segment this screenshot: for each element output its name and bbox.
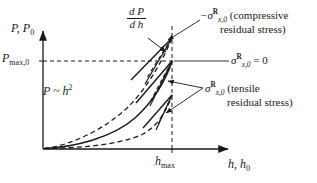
slope-numerator: d P [127,6,146,19]
x-tick-label-hmax: hmax [155,155,175,171]
power-law-exponent: 2 [69,83,73,92]
indentation-curve-figure: P, P0 Pmax,0 P ~ h2 d P d h −σRx,0 (comp… [0,0,317,183]
annotation-compressive: −σRx,0 (compressive residual stress) [200,9,288,35]
leader-line-compressive [168,20,200,40]
compressive-symbol: −σ [200,9,213,21]
tensile-subscript: x,0 [216,88,225,97]
power-law-label: P ~ h2 [43,84,73,98]
compressive-text-line1: (compressive [230,9,289,21]
slope-arrow [148,38,166,52]
x-axis-label: h, h0 [228,158,250,174]
hmax-subscript: max [161,161,175,170]
compressive-text-line2: residual stress) [220,24,288,36]
slope-denominator: d h [127,19,146,31]
tensile-text-line2: residual stress) [227,97,293,109]
tensile-text-line1: (tensile [227,82,259,94]
pmax-subscript: max,0 [9,58,29,67]
power-law-base: P ~ h [43,84,69,98]
tick-marks [39,61,172,153]
x-axis-label-subscript: 0 [246,164,250,173]
leader-line-tensile [168,81,203,88]
unloading-line-tensile-b [156,95,172,130]
y-axis-label-text: P, P [11,21,30,35]
slope-fraction-label: d P d h [127,6,146,30]
x-axis-label-text: h, h [228,157,246,171]
slope-indicator [148,38,166,52]
annotation-zero-stress: σRx,0 = 0 [231,54,268,69]
loading-curve-zero [44,61,172,149]
y-axis-label-subscript: 0 [30,28,34,37]
loading-curve-tensile [44,95,172,149]
zero-equals: = 0 [251,54,268,66]
y-tick-label-pmax: Pmax,0 [2,52,29,68]
zero-subscript: x,0 [242,60,251,69]
annotation-tensile: σRx,0 (tensile residual stress) [205,82,293,108]
y-axis-label: P, P0 [11,22,34,38]
